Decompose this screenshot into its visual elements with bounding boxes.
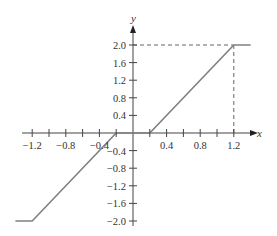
y-tick-label: 1.2 — [113, 75, 126, 86]
chart-canvas: −1.2−0.8−0.40.40.81.22.01.61.20.80.4−0.4… — [0, 0, 277, 236]
y-tick-label: 2.0 — [113, 40, 126, 51]
axes — [22, 25, 258, 226]
x-tick-label: −1.2 — [23, 140, 42, 151]
y-axis-label: y — [130, 12, 136, 24]
x-tick-label: 0.8 — [194, 140, 207, 151]
y-tick-label: −1.2 — [107, 181, 126, 192]
y-tick-label: 1.6 — [113, 58, 126, 69]
y-tick-label: −0.8 — [107, 163, 126, 174]
reference-dashed-lines — [133, 45, 234, 133]
x-tick-label: 0.4 — [160, 140, 174, 151]
y-tick-label: −1.6 — [107, 198, 126, 209]
x-tick-label: 1.2 — [227, 140, 240, 151]
y-axis-arrow-icon — [130, 25, 136, 33]
y-tick-label: −0.4 — [107, 146, 127, 157]
y-tick-label: 0.4 — [113, 110, 127, 121]
x-axis-label: x — [256, 127, 262, 139]
x-tick-label: −0.8 — [56, 140, 75, 151]
y-tick-label: −2.0 — [107, 216, 126, 227]
y-tick-label: 0.8 — [113, 93, 126, 104]
